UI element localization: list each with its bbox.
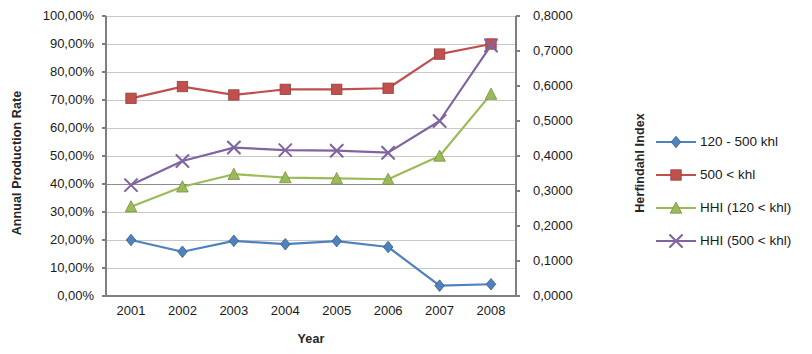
data-point-marker [332, 235, 342, 247]
data-point-marker [383, 83, 393, 93]
data-point-marker [434, 49, 444, 59]
legend-label: HHI (500 < khl) [700, 233, 791, 248]
chart-legend: 120 - 500 khl500 < khlHHI (120 < khl)HHI… [655, 125, 791, 257]
chart-container: Annual Production Rate Herfindahl Index … [0, 0, 812, 354]
legend-label: 500 < khl [700, 167, 755, 182]
data-point-marker [280, 84, 290, 94]
data-point-marker [485, 88, 497, 99]
data-point-marker [177, 81, 187, 91]
data-point-marker [332, 84, 342, 94]
series-line [125, 39, 497, 191]
data-point-marker [229, 90, 239, 100]
legend-item[interactable]: HHI (500 < khl) [655, 224, 791, 257]
data-point-marker [229, 235, 239, 247]
legend-label: HHI (120 < khl) [700, 200, 791, 215]
legend-marker-x-icon [655, 231, 697, 251]
data-point-marker [486, 278, 496, 290]
data-point-marker [178, 246, 188, 258]
legend-label: 120 - 500 khl [700, 134, 778, 149]
gridlines [106, 16, 516, 296]
data-point-marker [126, 93, 136, 103]
data-point-marker [435, 280, 445, 292]
data-point-marker [434, 115, 446, 127]
series-line [126, 234, 496, 291]
data-point-marker [383, 241, 393, 253]
data-point-marker [126, 234, 136, 246]
legend-marker-diamond-icon [655, 132, 697, 152]
legend-marker-square-icon [655, 165, 697, 185]
series-line [126, 39, 496, 104]
legend-item[interactable]: 500 < khl [655, 158, 791, 191]
legend-item[interactable]: 120 - 500 khl [655, 125, 791, 158]
data-series-group [125, 39, 497, 292]
legend-item[interactable]: HHI (120 < khl) [655, 191, 791, 224]
legend-marker-triangle-icon [655, 198, 697, 218]
data-point-marker [125, 179, 137, 191]
